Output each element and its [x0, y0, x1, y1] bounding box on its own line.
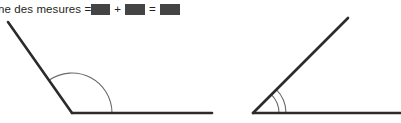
acute-angle-figure: [253, 18, 401, 113]
equals-sign: =: [149, 3, 156, 16]
equation-label: ne des mesures =: [0, 3, 91, 16]
sum-of-measures-equation: ne des mesures = + =: [0, 0, 401, 18]
acute-angle-ray-upper-right: [253, 18, 348, 113]
acute-angle-arc-inner: [271, 95, 279, 113]
angle-diagrams: [0, 0, 401, 123]
obtuse-angle-figure: [8, 22, 212, 113]
obtuse-angle-arc: [49, 73, 112, 113]
first-angle-measure-blank[interactable]: [91, 4, 110, 15]
plus-sign: +: [114, 3, 121, 16]
acute-angle-arc-outer: [276, 90, 286, 113]
second-angle-measure-blank[interactable]: [125, 4, 145, 15]
worksheet-page: ne des mesures = + =: [0, 0, 401, 123]
obtuse-angle-ray-upper-left: [8, 22, 72, 113]
sum-of-measures-blank[interactable]: [160, 4, 180, 15]
